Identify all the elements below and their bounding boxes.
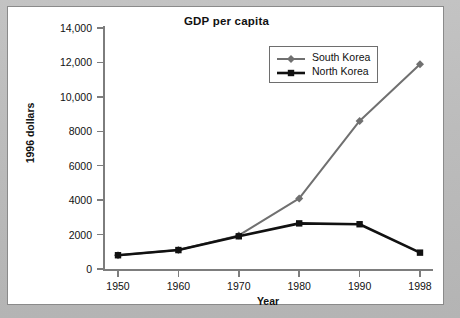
data-point-marker bbox=[115, 252, 121, 258]
data-point-marker bbox=[417, 249, 423, 255]
chart-screenshot: GDP per capita 1996 dollars Year 0200040… bbox=[0, 0, 460, 318]
chart-legend: South KoreaNorth Korea bbox=[269, 46, 378, 83]
legend-item[interactable]: South Korea bbox=[276, 50, 370, 64]
legend-square-marker-icon bbox=[276, 65, 306, 77]
data-point-marker bbox=[236, 233, 242, 239]
data-point-marker bbox=[175, 247, 181, 253]
data-point-marker bbox=[296, 220, 302, 226]
legend-diamond-marker-icon bbox=[276, 51, 306, 63]
series-line bbox=[118, 64, 420, 255]
series-north-korea bbox=[115, 220, 423, 258]
chart-panel: GDP per capita 1996 dollars Year 0200040… bbox=[7, 6, 444, 305]
plot-area: GDP per capita 1996 dollars Year 0200040… bbox=[8, 7, 445, 306]
series-layer bbox=[8, 7, 445, 306]
data-point-marker bbox=[356, 221, 362, 227]
legend-item-label: North Korea bbox=[312, 65, 369, 77]
legend-item[interactable]: North Korea bbox=[276, 64, 370, 78]
series-line bbox=[118, 223, 420, 255]
legend-item-label: South Korea bbox=[312, 51, 370, 63]
